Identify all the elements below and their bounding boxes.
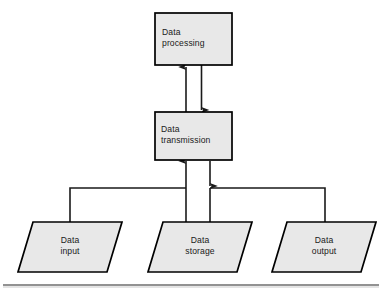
footer-rule — [3, 285, 379, 287]
node-data-storage[interactable] — [148, 222, 252, 272]
diagram-canvas — [0, 0, 382, 291]
connector-left-bus — [70, 188, 186, 222]
shape-layer — [18, 13, 376, 272]
flowchart-diagram: Data processing Data transmission Data i… — [0, 0, 382, 291]
connector-right-bus — [210, 188, 325, 222]
node-data-processing[interactable] — [155, 13, 232, 65]
node-data-transmission[interactable] — [155, 112, 232, 160]
node-data-input[interactable] — [18, 222, 122, 272]
node-data-output[interactable] — [272, 222, 376, 272]
